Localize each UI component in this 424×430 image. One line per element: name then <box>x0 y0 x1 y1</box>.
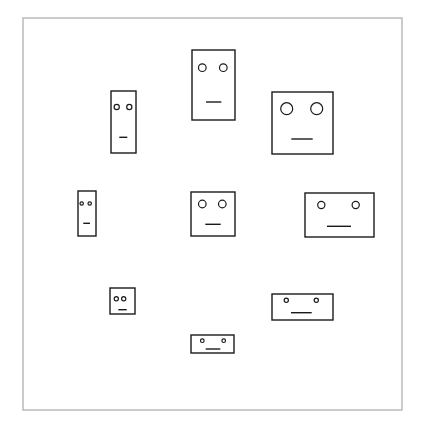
background <box>0 0 424 430</box>
faces-diagram <box>0 0 424 430</box>
